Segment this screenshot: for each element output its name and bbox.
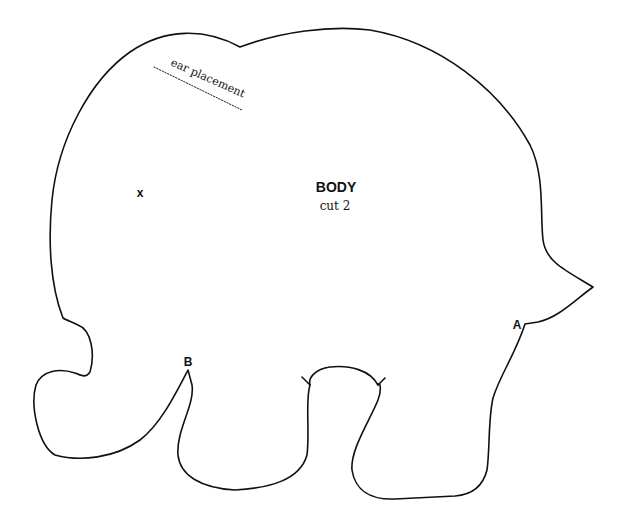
notch-left <box>302 377 310 385</box>
marker-b: B <box>184 355 193 369</box>
cut-instruction: cut 2 <box>320 199 351 213</box>
body-outline <box>34 28 593 499</box>
notch-right <box>378 378 385 385</box>
piece-title: BODY <box>316 179 357 195</box>
elephant-body-pattern: ear placement x BODY cut 2 A B <box>0 0 631 519</box>
marker-x: x <box>137 186 144 200</box>
marker-a: A <box>513 318 522 332</box>
